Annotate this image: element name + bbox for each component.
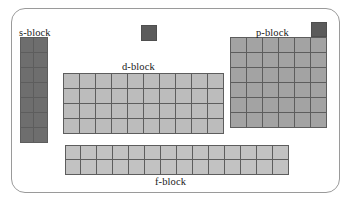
- table-cell: [310, 37, 327, 53]
- table-cell: [262, 67, 279, 83]
- table-cell: [310, 112, 327, 128]
- table-cell: [278, 112, 295, 128]
- table-cell: [127, 88, 144, 104]
- table-cell: [262, 97, 279, 113]
- table-cell: [20, 37, 35, 53]
- table-cell: [20, 82, 35, 98]
- table-cell: [207, 73, 224, 89]
- table-cell: [278, 37, 295, 53]
- table-cell: [65, 145, 82, 161]
- table-cell: [143, 118, 160, 134]
- table-cell: [20, 67, 35, 83]
- f-block-label: f-block: [155, 177, 186, 188]
- table-cell: [230, 82, 247, 98]
- p-block-label: p-block: [256, 28, 289, 39]
- table-cell: [230, 52, 247, 68]
- table-cell: [230, 37, 247, 53]
- table-cell: [159, 88, 176, 104]
- table-cell: [33, 112, 48, 128]
- table-cell: [230, 97, 247, 113]
- p-block-grid: [230, 37, 327, 127]
- table-cell: [191, 118, 208, 134]
- table-cell: [33, 37, 48, 53]
- table-cell: [176, 145, 193, 161]
- table-cell: [127, 73, 144, 89]
- table-cell: [79, 88, 96, 104]
- d-block-grid: [63, 73, 223, 133]
- table-cell: [65, 159, 82, 175]
- table-cell: [33, 67, 48, 83]
- table-cell: [175, 118, 192, 134]
- table-cell: [175, 73, 192, 89]
- table-cell: [310, 97, 327, 113]
- table-cell: [240, 145, 257, 161]
- table-cell: [246, 82, 263, 98]
- table-cell: [230, 67, 247, 83]
- table-cell: [144, 145, 161, 161]
- table-cell: [262, 37, 279, 53]
- table-cell: [207, 88, 224, 104]
- f-block-grid: [65, 145, 288, 174]
- table-cell: [80, 145, 97, 161]
- table-cell: [294, 82, 311, 98]
- table-cell: [143, 103, 160, 119]
- table-cell: [246, 52, 263, 68]
- table-cell: [262, 52, 279, 68]
- table-cell: [294, 97, 311, 113]
- table-cell: [160, 159, 177, 175]
- table-cell: [240, 159, 257, 175]
- table-cell: [224, 159, 241, 175]
- table-cell: [192, 145, 209, 161]
- table-cell: [20, 52, 35, 68]
- table-cell: [278, 82, 295, 98]
- table-cell: [143, 73, 160, 89]
- table-cell: [224, 145, 241, 161]
- table-cell: [159, 103, 176, 119]
- table-cell: [176, 159, 193, 175]
- table-cell: [294, 112, 311, 128]
- table-cell: [191, 73, 208, 89]
- table-cell: [246, 67, 263, 83]
- table-cell: [20, 127, 35, 143]
- table-cell: [33, 52, 48, 68]
- table-cell: [208, 159, 225, 175]
- table-cell: [111, 88, 128, 104]
- table-cell: [143, 88, 160, 104]
- table-cell: [256, 159, 273, 175]
- table-cell: [262, 82, 279, 98]
- table-cell: [95, 118, 112, 134]
- hydrogen-cell: [141, 25, 157, 41]
- table-cell: [95, 103, 112, 119]
- table-cell: [33, 127, 48, 143]
- d-block-label: d-block: [122, 62, 155, 73]
- table-cell: [80, 159, 97, 175]
- table-cell: [294, 67, 311, 83]
- table-cell: [128, 159, 145, 175]
- table-cell: [112, 159, 129, 175]
- table-cell: [96, 159, 113, 175]
- table-cell: [278, 67, 295, 83]
- table-cell: [111, 73, 128, 89]
- table-cell: [160, 145, 177, 161]
- table-cell: [230, 112, 247, 128]
- table-cell: [95, 88, 112, 104]
- table-cell: [79, 103, 96, 119]
- helium-cell: [311, 22, 327, 37]
- table-cell: [79, 118, 96, 134]
- table-cell: [272, 145, 289, 161]
- table-cell: [207, 103, 224, 119]
- table-cell: [175, 88, 192, 104]
- table-cell: [246, 97, 263, 113]
- table-cell: [95, 73, 112, 89]
- table-cell: [294, 52, 311, 68]
- s-block-grid: [20, 37, 47, 142]
- table-cell: [310, 52, 327, 68]
- table-cell: [144, 159, 161, 175]
- table-cell: [20, 112, 35, 128]
- table-cell: [207, 118, 224, 134]
- table-cell: [310, 67, 327, 83]
- table-cell: [96, 145, 113, 161]
- table-cell: [63, 88, 80, 104]
- table-cell: [256, 145, 273, 161]
- table-cell: [246, 112, 263, 128]
